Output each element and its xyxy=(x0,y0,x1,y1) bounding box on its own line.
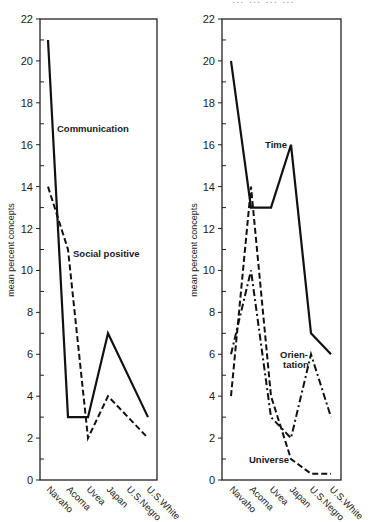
y-tick-label: 22 xyxy=(21,13,33,25)
series-annotation: Time xyxy=(265,139,287,150)
y-tick-label: 16 xyxy=(203,139,215,151)
chart-panel-left: 0246810121416182022mean percent concepts… xyxy=(6,13,183,522)
series-line-communication xyxy=(48,40,148,417)
y-axis-label: mean percent concepts xyxy=(189,203,199,297)
y-tick-label: 4 xyxy=(209,390,215,402)
y-axis-label: mean percent concepts xyxy=(6,203,16,297)
y-tick-label: 10 xyxy=(203,264,215,276)
y-tick-label: 4 xyxy=(27,390,33,402)
series-annotation: Social positive xyxy=(73,248,140,259)
y-tick-label: 12 xyxy=(203,223,215,235)
y-tick-label: 18 xyxy=(203,97,215,109)
chart-panel-right: 0246810121416182022mean percent concepts… xyxy=(189,13,366,522)
y-tick-label: 10 xyxy=(21,264,33,276)
x-tick-label: Japan xyxy=(288,484,314,510)
y-tick-label: 2 xyxy=(209,432,215,444)
y-tick-label: 20 xyxy=(21,55,33,67)
y-tick-label: 8 xyxy=(209,306,215,318)
y-tick-label: 22 xyxy=(203,13,215,25)
series-annotation: Universe xyxy=(249,454,289,465)
y-tick-label: 6 xyxy=(27,348,33,360)
plot-frame xyxy=(222,19,341,480)
y-tick-label: 14 xyxy=(21,181,33,193)
y-tick-label: 6 xyxy=(209,348,215,360)
y-tick-label: 2 xyxy=(27,432,33,444)
y-tick-label: 0 xyxy=(209,474,215,486)
y-tick-label: 8 xyxy=(27,306,33,318)
y-tick-label: 20 xyxy=(203,55,215,67)
y-tick-label: 12 xyxy=(21,223,33,235)
series-line-time xyxy=(231,61,331,354)
y-tick-label: 16 xyxy=(21,139,33,151)
figure: 0246810121416182022mean percent concepts… xyxy=(0,0,372,522)
series-annotation: tation xyxy=(283,359,309,370)
y-tick-label: 0 xyxy=(27,474,33,486)
x-tick-label: Japan xyxy=(105,484,131,510)
y-tick-label: 18 xyxy=(21,97,33,109)
y-tick-label: 14 xyxy=(203,181,215,193)
series-annotation: Communication xyxy=(57,123,129,134)
series-line-universe xyxy=(231,187,331,474)
